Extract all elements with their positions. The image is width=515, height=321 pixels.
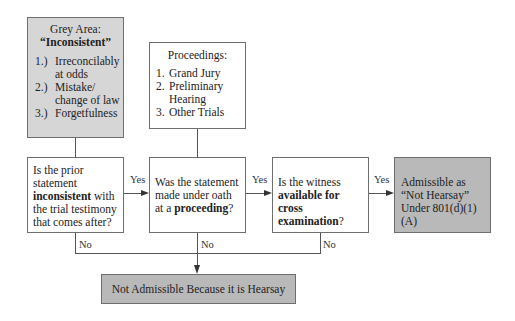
grey-area-box: Grey Area: “Inconsistent” 1.)Irreconcila… [27,17,124,138]
grey-area-list: 1.)Irreconcilably at odds 2.)Mistake/ ch… [31,55,120,120]
no-line-1 [75,233,76,254]
question-inconsistent-box: Is the prior statement inconsistent with… [27,157,124,233]
list-item: 3.)Forgetfulness [31,107,120,120]
keyword-available: available for cross examination [278,189,339,227]
outcome-not-admissible-box: Not Admissible Because it is Hearsay [101,274,296,304]
keyword-inconsistent: inconsistent [33,190,91,202]
list-item: 2.Preliminary Hearing [153,80,242,106]
proceedings-title: Proceedings: [153,49,242,62]
yes-label-3: Yes [374,174,389,185]
no-line-horizontal [75,253,321,254]
connector-line [197,129,198,157]
arrowhead-icon [386,190,394,196]
outcome-admissible-box: Admissible as “Not Hearsay” Under 801(d)… [394,157,491,233]
list-item: 3.Other Trials [153,106,242,119]
no-label-2: No [201,239,214,250]
no-label-3: No [323,239,336,250]
arrowhead-down-icon [194,265,200,274]
connector-line [75,138,76,157]
grey-area-subtitle: “Inconsistent” [31,36,120,49]
arrowhead-icon [141,190,149,196]
yes-arrow-2 [246,193,266,194]
no-line-2 [197,233,198,267]
proceedings-list: 1.Grand Jury 2.Preliminary Hearing 3.Oth… [153,67,242,119]
no-line-3 [320,233,321,254]
no-label-1: No [79,239,92,250]
list-item: 2.)Mistake/ change of law [31,81,120,107]
proceedings-box: Proceedings: 1.Grand Jury 2.Preliminary … [149,42,246,129]
arrowhead-icon [264,190,272,196]
list-item: 1.Grand Jury [153,67,242,80]
yes-label-2: Yes [252,174,267,185]
question-available-box: Is the witness available for cross exami… [272,157,369,233]
list-item: 1.)Irreconcilably at odds [31,55,120,81]
yes-label-1: Yes [130,174,145,185]
question-proceeding-box: Was the statement made under oath at a p… [149,157,246,233]
keyword-proceeding: proceeding [174,202,228,214]
grey-area-title: Grey Area: [31,23,120,36]
